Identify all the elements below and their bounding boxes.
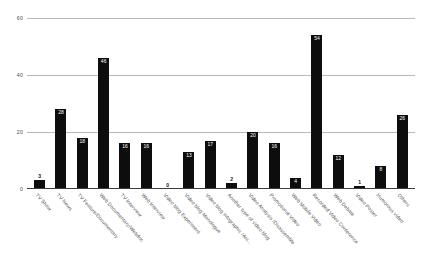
bar-value-label: 13 (186, 153, 192, 158)
bar-slot: 26 (392, 18, 413, 189)
bar-slot: 54 (306, 18, 327, 189)
bar[interactable]: 8 (375, 166, 386, 189)
bar[interactable]: 54 (311, 35, 322, 189)
bar-value-label: 4 (294, 179, 297, 184)
x-axis-category-labels: TV ShowTV NewsTV Feature/DocumentaryWeb … (27, 190, 415, 272)
bar-value-label: 16 (144, 144, 150, 149)
y-axis-tick-label: 40 (17, 72, 23, 78)
bar-value-label: 16 (271, 144, 277, 149)
bar-value-label: 18 (80, 139, 86, 144)
x-axis-tick-label: Others (397, 192, 412, 208)
bar-value-label: 3 (38, 174, 41, 179)
x-label-slot: Video Analysis /Disassemble (242, 190, 263, 272)
bar-slot: 16 (114, 18, 135, 189)
bar-value-label: 1 (358, 180, 361, 185)
bar-slot: 16 (264, 18, 285, 189)
x-label-slot: TV Interview (114, 190, 135, 272)
bar-slot: 4 (285, 18, 306, 189)
bar-slot: 18 (72, 18, 93, 189)
x-label-slot: Web Mobile Video (285, 190, 306, 272)
bar-slot: 28 (50, 18, 71, 189)
x-label-slot: Humorous video (370, 190, 391, 272)
bar[interactable]: 18 (77, 138, 88, 189)
bar-slot: 16 (136, 18, 157, 189)
bar[interactable]: 16 (269, 143, 280, 189)
bar-slot: 1 (349, 18, 370, 189)
x-label-slot: Video blog Experiment (157, 190, 178, 272)
plot-area: 0204060 328184616160131722016454121826 (27, 18, 415, 189)
bar[interactable]: 12 (333, 155, 344, 189)
x-label-slot: TV Show (29, 190, 50, 272)
bar-slot: 8 (370, 18, 391, 189)
bar-value-label: 2 (230, 177, 233, 182)
bar-slot: 13 (178, 18, 199, 189)
bar[interactable]: 16 (119, 143, 130, 189)
y-axis-tick-label: 20 (17, 129, 23, 135)
bar-slot: 17 (200, 18, 221, 189)
x-label-slot: Web Interview (136, 190, 157, 272)
bar[interactable]: 17 (205, 141, 216, 189)
bar-value-label: 0 (166, 183, 169, 188)
bar[interactable]: 28 (55, 109, 66, 189)
x-label-slot: Video Poster (349, 190, 370, 272)
x-label-slot: Video blog infographic /Ani... (200, 190, 221, 272)
bar-slot: 20 (242, 18, 263, 189)
bar-slot: 12 (328, 18, 349, 189)
bar[interactable]: 46 (98, 58, 109, 189)
bar[interactable]: 26 (397, 115, 408, 189)
bar-value-label: 17 (208, 142, 214, 147)
bar-value-label: 16 (122, 144, 128, 149)
x-label-slot: Promotional Video (264, 190, 285, 272)
x-label-slot: Others (392, 190, 413, 272)
bar-value-label: 20 (250, 133, 256, 138)
x-label-slot: Recorded Video Conference (306, 190, 327, 272)
bar-value-label: 26 (399, 116, 405, 121)
bar-value-label: 12 (335, 156, 341, 161)
y-axis-tick-label: 0 (20, 186, 23, 192)
x-axis-line (27, 188, 415, 189)
bar[interactable]: 16 (141, 143, 152, 189)
bar-value-label: 54 (314, 36, 320, 41)
x-label-slot: Video blog Monologue (178, 190, 199, 272)
bar-slot: 2 (221, 18, 242, 189)
bar-chart: 0204060 328184616160131722016454121826 T… (0, 0, 432, 272)
x-label-slot: Another type of video blog (221, 190, 242, 272)
bar-value-label: 46 (101, 59, 107, 64)
bar-slot: 46 (93, 18, 114, 189)
bar-value-label: 28 (58, 110, 64, 115)
bar[interactable]: 13 (183, 152, 194, 189)
bar[interactable]: 20 (247, 132, 258, 189)
x-label-slot: Web Documentary/Webdoc (93, 190, 114, 272)
x-label-slot: TV Feature/Documentary (72, 190, 93, 272)
x-label-slot: Web Debate (328, 190, 349, 272)
bar-series: 328184616160131722016454121826 (27, 18, 415, 189)
bar-value-label: 8 (380, 167, 383, 172)
bar-slot: 0 (157, 18, 178, 189)
bar-slot: 3 (29, 18, 50, 189)
x-label-slot: TV News (50, 190, 71, 272)
y-axis-tick-label: 60 (17, 15, 23, 21)
